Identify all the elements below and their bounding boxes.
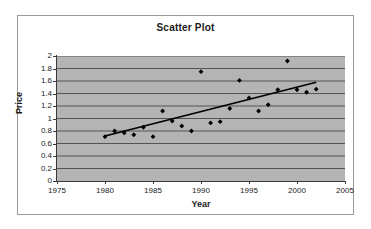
y-tick-text: 1.6: [26, 77, 52, 85]
x-tick-mark: [249, 181, 250, 184]
data-point: [199, 69, 204, 74]
x-tick-mark: [297, 181, 298, 184]
trendline-segment: [105, 82, 316, 136]
y-tick-mark: [53, 169, 56, 170]
x-tick-label: 2000: [277, 186, 317, 195]
y-tick-label: 0: [26, 177, 52, 185]
y-tick-text: 0.6: [26, 140, 52, 148]
x-tick-label: 1990: [181, 186, 221, 195]
y-tick-label: 1.4: [26, 90, 52, 98]
chart-screenshot: Scatter Plot 00.20.40.60.811.21.41.61.82…: [0, 0, 371, 229]
data-point: [237, 78, 242, 83]
x-tick-mark: [57, 181, 58, 184]
y-tick-mark: [53, 131, 56, 132]
y-tick-mark: [53, 119, 56, 120]
x-tick-label: 2005: [325, 186, 365, 195]
chart-title: Scatter Plot: [0, 22, 371, 33]
x-tick-label: 1975: [37, 186, 77, 195]
y-tick-mark: [53, 181, 56, 182]
y-tick-mark: [53, 69, 56, 70]
y-tick-label: 1.6: [26, 77, 52, 85]
y-tick-label: 0.4: [26, 152, 52, 160]
data-point: [256, 109, 261, 114]
data-point: [189, 129, 194, 134]
y-axis-line: [56, 55, 57, 182]
y-tick-label: 2: [26, 52, 52, 60]
y-tick-label: 1.8: [26, 65, 52, 73]
data-point: [179, 124, 184, 129]
y-axis-title: Price: [14, 81, 24, 125]
y-tick-text: 1: [26, 115, 52, 123]
y-tick-text: 0.8: [26, 127, 52, 135]
y-tick-mark: [53, 94, 56, 95]
y-tick-text: 0.2: [26, 165, 52, 173]
x-tick-label: 1980: [85, 186, 125, 195]
x-tick-label: 1995: [229, 186, 269, 195]
x-tick-mark: [105, 181, 106, 184]
y-tick-label: 0.2: [26, 165, 52, 173]
data-point: [131, 132, 136, 137]
y-tick-text: 0.4: [26, 152, 52, 160]
y-tick-text: 1.4: [26, 90, 52, 98]
x-tick-mark: [201, 181, 202, 184]
data-point: [218, 119, 223, 124]
x-axis-title: Year: [57, 199, 345, 209]
x-tick-mark: [345, 181, 346, 184]
y-tick-text: 1.8: [26, 65, 52, 73]
y-tick-label: 0.6: [26, 140, 52, 148]
y-tick-mark: [53, 106, 56, 107]
data-point: [314, 87, 319, 92]
plot-area: [57, 56, 345, 181]
y-tick-label: 0.8: [26, 127, 52, 135]
data-point: [285, 59, 290, 64]
y-tick-mark: [53, 81, 56, 82]
data-point: [208, 120, 213, 125]
x-tick-label: 1985: [133, 186, 173, 195]
y-tick-mark: [53, 56, 56, 57]
data-point: [151, 134, 156, 139]
data-markers: [103, 59, 319, 139]
data-point: [227, 106, 232, 111]
y-tick-text: 2: [26, 52, 52, 60]
y-tick-label: 1: [26, 115, 52, 123]
y-tick-text: 1.2: [26, 102, 52, 110]
y-tick-text: 0: [26, 177, 52, 185]
y-tick-label: 1.2: [26, 102, 52, 110]
data-point: [160, 109, 165, 114]
x-tick-mark: [153, 181, 154, 184]
trendline: [105, 82, 316, 136]
y-tick-mark: [53, 144, 56, 145]
y-tick-mark: [53, 156, 56, 157]
plot-svg: [57, 56, 345, 181]
